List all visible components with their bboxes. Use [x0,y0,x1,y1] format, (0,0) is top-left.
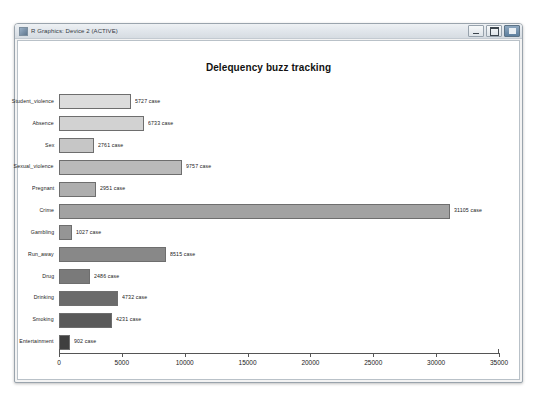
x-tick-label: 35000 [490,359,508,366]
bar [59,138,94,153]
x-tick [248,353,249,357]
x-tick [373,353,374,357]
bar-value-label: 2761 case [98,143,123,149]
chart-title: Delequency buzz tracking [18,62,519,73]
category-label: Drug [42,274,54,280]
bar [59,335,70,350]
r-graphics-icon [19,27,28,36]
bar [59,291,118,306]
x-tick-label: 10000 [176,359,194,366]
bar-value-label: 1027 case [76,230,101,236]
category-label: Absence [33,121,54,127]
bar-row: Sex2761 case [59,135,115,157]
bar-row: Absence6733 case [59,113,165,135]
bar-row: Entertainment902 case [59,331,90,353]
window-title: R Graphics: Device 2 (ACTIVE) [31,28,118,34]
x-tick-label: 25000 [364,359,382,366]
desktop-background: R Graphics: Device 2 (ACTIVE) Delequency… [0,0,537,419]
plot-canvas: Delequency buzz tracking Student_violenc… [17,40,520,380]
bar [59,247,166,262]
bar-row: Smoking4231 case [59,309,134,331]
bar [59,204,450,219]
bar-value-label: 5727 case [135,99,160,105]
bar-row: Student_violence5727 case [59,91,152,113]
close-button[interactable] [504,25,520,37]
bar-value-label: 4732 case [122,296,147,302]
x-tick-label: 20000 [301,359,319,366]
minimize-button[interactable] [468,25,484,37]
x-tick [499,353,500,357]
x-tick-label: 30000 [427,359,445,366]
bar-value-label: 2951 case [100,186,125,192]
maximize-button[interactable] [486,25,502,37]
plot-area: Student_violence5727 caseAbsence6733 cas… [59,91,499,353]
category-label: Drinking [34,296,54,302]
bar-row: Drug2486 case [59,266,112,288]
bar-value-label: 8515 case [170,252,195,258]
bar-value-label: 4231 case [116,317,141,323]
x-tick [310,353,311,357]
bar-value-label: 6733 case [148,121,173,127]
category-label: Pregnant [32,186,54,192]
x-tick-label: 15000 [239,359,257,366]
bar-row: Sexual_violence9757 case [59,157,203,179]
bar-row: Crime31105 case [59,200,473,222]
category-label: Sexual_violence [14,165,54,171]
x-tick [436,353,437,357]
bar-value-label: 902 case [74,339,96,345]
x-tick-label: 5000 [115,359,129,366]
bar-row: Gambling1027 case [59,222,93,244]
bar-value-label: 9757 case [186,165,211,171]
bar-row: Run_away8515 case [59,244,188,266]
window-controls [468,25,520,37]
category-label: Smoking [33,317,54,323]
bar-row: Pregnant2951 case [59,178,118,200]
category-label: Crime [39,208,54,214]
bar-row: Drinking4732 case [59,288,140,310]
bar-value-label: 2486 case [94,274,119,280]
bar [59,313,112,328]
category-label: Sex [45,143,54,149]
bar [59,182,96,197]
category-label: Run_away [28,252,54,258]
category-label: Gambling [31,230,54,236]
bar [59,225,72,240]
category-label: Entertainment [20,339,54,345]
bar [59,116,144,131]
category-label: Student_violence [12,99,54,105]
x-tick-label: 0 [57,359,61,366]
x-tick [185,353,186,357]
x-axis: 05000100001500020000250003000035000 [59,353,499,354]
bar-chart: Delequency buzz tracking Student_violenc… [18,41,519,379]
x-tick [122,353,123,357]
bar [59,269,90,284]
bar [59,160,182,175]
bar-value-label: 31105 case [454,208,482,214]
x-tick [59,353,60,357]
r-graphics-window: R Graphics: Device 2 (ACTIVE) Delequency… [14,23,523,383]
bar [59,94,131,109]
window-titlebar[interactable]: R Graphics: Device 2 (ACTIVE) [15,24,522,39]
